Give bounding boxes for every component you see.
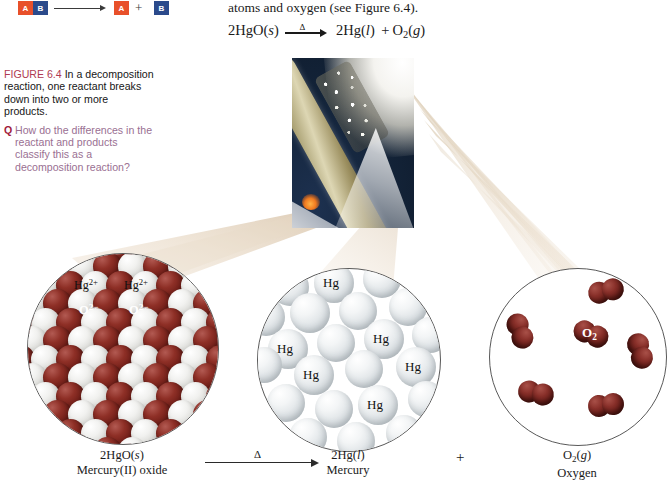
mercury-atom-sphere [289, 418, 327, 452]
oxide-ion-sphere [193, 400, 219, 429]
bottom-reactant-label: 2HgO(s) Mercury(II) oxide [52, 448, 192, 477]
caption-question-block: Q How do the differences in the reactant… [4, 124, 154, 174]
schematic-arrow-line [54, 8, 102, 9]
schematic-box-a-product: A [114, 1, 129, 15]
bottom-product1-formula: 2Hg(l) [288, 448, 408, 463]
bottom-reactant-formula: 2HgO(s) [52, 448, 192, 463]
equation-product1-formula: 2Hg( [336, 22, 366, 38]
equation-product1-close: ) [370, 22, 375, 38]
caption-figure-number: FIGURE 6.4 [4, 68, 62, 80]
bottom-product2-label: O2(g) Oxygen [517, 448, 637, 481]
oxygen-molecule [586, 275, 627, 307]
equation-arrow-bar [285, 32, 323, 33]
reaction-photograph [292, 58, 414, 228]
bottom-plus-sign: + [456, 449, 464, 466]
schematic-box-a-reactant: A [18, 1, 33, 15]
schematic-product-b-group: B [154, 1, 169, 15]
equation-arrow-head-icon [320, 29, 327, 37]
bottom-delta-symbol: Δ [254, 448, 261, 460]
oxygen-gas-circle: O2 [489, 268, 667, 446]
mercury-atom-sphere [386, 415, 422, 451]
oxygen-molecule [516, 378, 556, 409]
mercury-atom-sphere [345, 350, 383, 388]
oxygen-molecule [587, 391, 626, 420]
intro-paragraph: atoms and oxygen (see Figure 6.4). [228, 0, 528, 15]
schematic-box-b-product: B [154, 1, 169, 15]
mercury-atom-sphere [408, 381, 441, 417]
main-chemical-equation: 2HgO(s) Δ 2Hg(l) +O2(g) [228, 22, 548, 40]
mercury-atom-sphere [294, 355, 334, 395]
equation-plus-sign: + [378, 22, 392, 38]
figure-caption: FIGURE 6.4 In a decomposition reaction, … [4, 68, 154, 173]
equation-product2-close: ) [420, 22, 425, 38]
schematic-arrow-head-icon [100, 5, 106, 11]
oxide-ion-sphere [156, 419, 185, 446]
decomposition-schematic: A B A + B [18, 1, 188, 19]
caption-main-text: FIGURE 6.4 In a decomposition reaction, … [4, 68, 154, 118]
equation-reaction-arrow: Δ [285, 26, 329, 38]
oxygen-molecule [624, 330, 657, 371]
caption-question-marker: Q [4, 124, 12, 136]
schematic-reactant-ab: A B [18, 1, 48, 15]
bottom-product1-label: 2Hg(l) Mercury [288, 448, 408, 477]
hgo-lattice-circle: Hg2+Hg2+O2−O2− [27, 253, 219, 445]
mercury-atom-sphere [267, 384, 305, 422]
oxygen-molecule [503, 310, 538, 352]
schematic-plus-sign: + [135, 0, 142, 16]
bottom-product1-name: Mercury [288, 463, 408, 478]
equation-reactant-formula: 2HgO( [228, 22, 268, 38]
bottom-product2-formula: O2(g) [517, 448, 637, 466]
equation-delta-symbol: Δ [299, 22, 305, 32]
bottom-reactant-name: Mercury(II) oxide [52, 463, 192, 478]
equation-product2-formula: O [393, 22, 403, 38]
bottom-product2-name: Oxygen [517, 466, 637, 481]
schematic-box-b-reactant: B [33, 1, 48, 15]
oxygen-molecule [570, 316, 612, 352]
equation-reactant-close: ) [274, 22, 279, 38]
flame-icon [302, 194, 320, 210]
caption-question-text: How do the differences in the reactant a… [15, 124, 152, 173]
schematic-product-a-group: A [114, 1, 129, 15]
mercury-liquid-circle: HgHgHgHgHgHg [257, 268, 441, 452]
